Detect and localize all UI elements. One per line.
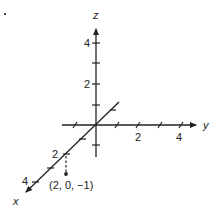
y-axis [62, 122, 196, 128]
point-marker [64, 172, 68, 176]
z-axis-label: z [92, 9, 99, 21]
z-tick-label-4: 4 [84, 37, 90, 49]
coordinate-diagram: z 4 2 y 2 4 x 2 4 (2, 0, −1) [0, 0, 220, 208]
x-axis-label: x [12, 195, 19, 207]
y-tick-label-2: 2 [135, 131, 141, 143]
z-tick-label-2: 2 [84, 78, 90, 90]
z-axis [92, 29, 100, 157]
stray-dot [4, 13, 6, 15]
y-axis-label: y [202, 119, 210, 131]
point-label: (2, 0, −1) [49, 179, 93, 191]
y-tick-label-4: 4 [176, 131, 182, 143]
x-tick-label-2: 2 [52, 148, 58, 160]
x-tick-label-4: 4 [22, 175, 28, 187]
